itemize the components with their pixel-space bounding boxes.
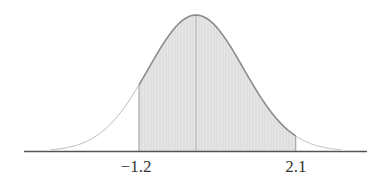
shaded-area [139,15,296,151]
tick-label-left: −1.2 [121,157,152,176]
curve-right-tail [296,136,341,150]
curve-left-tail [51,85,139,150]
tick-label-right: 2.1 [285,157,306,176]
normal-distribution-chart: −1.2 2.1 [0,0,385,189]
